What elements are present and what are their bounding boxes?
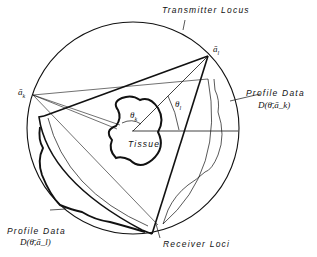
theta-l-sub: l: [179, 105, 181, 111]
diagram-canvas: Transmitter Locus āl āk θl θk Tissue Pro…: [0, 0, 317, 257]
point-ak-label: āk: [18, 88, 25, 99]
point-al-label: āl: [213, 45, 219, 56]
leader-lines: [50, 20, 260, 238]
profile-data-right-curve: [163, 79, 222, 224]
diagram-svg: [0, 0, 317, 257]
point-al-sub: l: [218, 50, 220, 56]
theta-k-label: θk: [130, 111, 137, 122]
profile-data-left-formula: D(θ̄,ā_l): [20, 238, 51, 247]
tissue-label: Tissue: [128, 140, 160, 149]
receiver-loci-label: Receiver Loci: [163, 240, 230, 249]
receiver-locus-left-inner: [48, 118, 148, 226]
receiver-locus-left: [39, 116, 152, 234]
theta-k-sub: k: [134, 116, 137, 122]
theta-l-label: θl: [175, 100, 181, 111]
profile-data-right-label: Profile Data: [246, 89, 305, 98]
profile-data-right-formula: D(θ̄,ā_k): [258, 101, 290, 110]
transmitter-locus-label: Transmitter Locus: [162, 6, 250, 15]
transmitter-locus-circle: [27, 22, 239, 234]
point-ak-sub: k: [23, 93, 26, 99]
profile-data-left-label: Profile Data: [7, 227, 66, 236]
